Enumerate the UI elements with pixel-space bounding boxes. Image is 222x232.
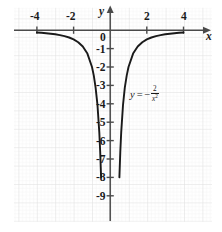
y-tick-label-neg8: -8: [96, 172, 106, 184]
equation-fraction: 2 x2: [151, 86, 159, 105]
equation-equals: =: [137, 89, 143, 100]
equation-minus: −: [145, 89, 151, 100]
denominator-exponent: 2: [155, 93, 158, 99]
curve-equation-label: y=− 2 x2: [130, 86, 159, 105]
equation-lhs: y: [130, 89, 135, 100]
x-tick-label-neg2: -2: [66, 11, 76, 23]
y-tick-label-neg5: -5: [96, 117, 106, 129]
y-tick-label-neg3: -3: [96, 80, 106, 92]
y-tick-label-neg2: -2: [96, 62, 106, 74]
fraction-denominator: x2: [151, 94, 159, 104]
y-axis-label: y: [99, 6, 104, 18]
y-tick-label-neg9: -9: [96, 191, 106, 203]
x-tick-label-2: 2: [144, 11, 150, 23]
y-tick-label-neg1: -1: [96, 44, 106, 56]
origin-label: 0: [100, 32, 106, 44]
x-tick-label-4: 4: [181, 11, 187, 23]
x-axis-label: x: [206, 31, 212, 43]
y-tick-label-neg4: -4: [96, 99, 106, 111]
y-tick-label-neg7: -7: [96, 154, 106, 166]
x-tick-label-neg4: -4: [30, 11, 40, 23]
plot-canvas: [0, 0, 222, 232]
y-tick-label-neg6: -6: [96, 136, 106, 148]
graph-figure: -4 -2 2 4 0 -1 -2 -3 -4 -5 -6 -7 -8 -9 y…: [0, 0, 222, 232]
grid-background: [14, 8, 212, 222]
